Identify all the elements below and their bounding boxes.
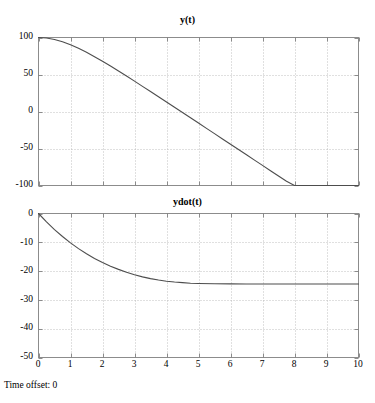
axes-frame-y [39,38,359,186]
scope-figure: y(t) 100 50 0 -50 -100 ydot(t) 0 -10 -20… [0,0,375,403]
x-axis-tick-label: 7 [246,359,278,369]
axes-frame-ydot [39,214,359,358]
x-axis-tick-label: 5 [182,359,214,369]
plot-panel-ydot: ydot(t) 0 -10 -20 -30 -40 -50 0 1 2 3 4 … [0,196,375,376]
data-line-y [39,38,359,186]
x-axis-tick-label: 1 [54,359,86,369]
grid-lines-ydot [39,214,359,358]
x-axis-tick-label: 3 [118,359,150,369]
x-axis-tick-label: 4 [150,359,182,369]
x-axis-tick-label: 9 [310,359,342,369]
grid-lines-y [39,38,359,186]
x-axis-tick-label: 6 [214,359,246,369]
x-axis-tick-label: 0 [22,359,54,369]
x-axis-tick-label: 2 [86,359,118,369]
tick-marks-ydot [39,214,360,359]
plot-canvas-y [0,14,375,189]
plot-canvas-ydot [0,196,375,376]
plot-panel-y: y(t) 100 50 0 -50 -100 [0,14,375,189]
data-line-ydot [39,214,359,285]
time-offset-label: Time offset: 0 [4,380,57,390]
x-axis-tick-label: 10 [342,359,374,369]
x-axis-tick-label: 8 [278,359,310,369]
tick-marks-y [39,38,360,187]
